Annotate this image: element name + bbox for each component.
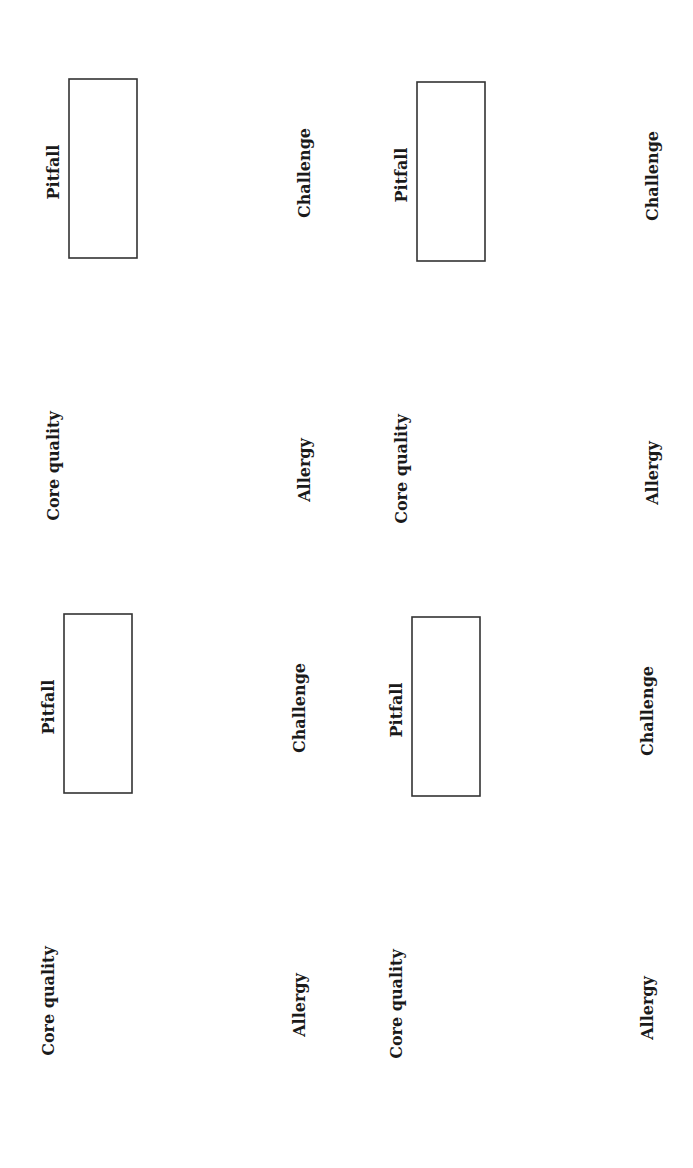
core-quadrant-diagram-2: PitfallChallengeCore qualityAllergyProcr… [392,82,662,524]
pitfall-label: Pitfall [392,148,411,203]
core-quadrant-diagram-3: PitfallChallengeCore qualityAllergyConfl… [39,614,309,1056]
allergy-label: Allergy [638,975,657,1040]
pitfall-box: Conflict-avoidanceBelligerenceToleranceH… [64,614,132,793]
core-quality-label: Core quality [387,948,406,1058]
core-quadrant-diagram-4: PitfallChallengeCore qualityAllergySlown… [387,617,657,1059]
pitfall-label: Pitfall [44,145,63,200]
core-quality-label: Core quality [39,945,58,1055]
core-quality-label: Core quality [392,413,411,523]
pitfall-label: Pitfall [39,680,58,735]
core-quadrant-figure: PitfallChallengeCore qualityAllergyHesit… [0,0,693,1168]
allergy-label: Allergy [295,437,314,502]
allergy-label: Allergy [643,440,662,505]
pitfall-label: Pitfall [387,683,406,738]
allergy-label: Allergy [290,972,309,1037]
core-quality-label: Core quality [44,410,63,520]
pitfall-box: HesitationDriveSusceptibilityPig-headedn… [69,79,137,258]
challenge-label: Challenge [643,131,662,221]
pitfall-box: SlownessEnergyQuietnessAgitationPositive… [412,617,480,796]
challenge-label: Challenge [290,663,309,753]
pitfall-box: ProcrastinationResolutenessCautiousnessP… [417,82,485,261]
challenge-label: Challenge [295,128,314,218]
challenge-label: Challenge [638,666,657,756]
core-quadrant-diagram-1: PitfallChallengeCore qualityAllergyHesit… [44,79,314,521]
